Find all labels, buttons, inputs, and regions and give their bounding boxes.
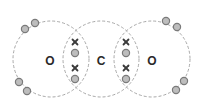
electron-dot: [162, 17, 169, 24]
electron-dot: [172, 86, 179, 93]
cross-electron-icon: [73, 66, 78, 71]
electron-dot: [173, 23, 180, 30]
electron-dot: [15, 78, 22, 85]
electron-dot: [122, 75, 129, 82]
cross-electron-icon: [124, 66, 129, 71]
cross-electron-icon: [73, 40, 78, 45]
electron-dot: [122, 49, 129, 56]
electron-dot: [180, 77, 187, 84]
electron-dot: [31, 19, 38, 26]
electron-dot: [71, 49, 78, 56]
left-double-bond: [71, 40, 78, 83]
cross-electron-icon: [124, 40, 129, 45]
electron-dot: [23, 87, 30, 94]
atom-labels: O C O: [45, 54, 156, 68]
electron-dot: [21, 25, 28, 32]
left-oxygen-label: O: [45, 54, 54, 68]
co2-dot-and-cross-diagram: O C O: [0, 0, 202, 104]
carbon-label: C: [97, 54, 106, 68]
right-oxygen-label: O: [147, 54, 156, 68]
electron-dot: [71, 75, 78, 82]
right-double-bond: [122, 40, 129, 83]
